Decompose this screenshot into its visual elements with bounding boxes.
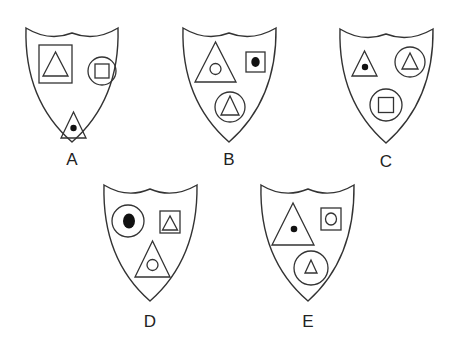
- circle-with-triangle: [395, 47, 425, 77]
- shield-option-c[interactable]: C: [340, 29, 433, 171]
- shield-outline-icon: [183, 28, 276, 142]
- square-with-dot: [246, 52, 265, 72]
- circle-with-square: [88, 57, 116, 85]
- shield-outline-icon: [340, 29, 433, 143]
- shield-puzzle-diagram: A B: [0, 0, 454, 349]
- triangle-with-dot: [352, 51, 377, 76]
- shield-outline-icon: [261, 185, 354, 301]
- option-label-c: C: [380, 152, 392, 171]
- triangle-with-dot: [61, 112, 86, 138]
- triangle-with-circle: [135, 241, 170, 277]
- circle-with-dot: [112, 205, 144, 237]
- triangle-with-circle: [195, 42, 236, 82]
- option-label-e: E: [302, 312, 313, 331]
- square-with-circle: [321, 208, 341, 230]
- circle-with-square: [370, 89, 402, 121]
- shield-outline-icon: [104, 185, 197, 301]
- circle-with-triangle: [294, 251, 328, 285]
- shield-option-d[interactable]: D: [104, 185, 197, 331]
- shield-option-e[interactable]: E: [261, 185, 354, 331]
- square-with-triangle: [39, 45, 72, 83]
- option-label-a: A: [66, 150, 78, 169]
- shield-option-b[interactable]: B: [183, 28, 276, 169]
- shield-option-a[interactable]: A: [26, 28, 118, 169]
- option-label-d: D: [144, 312, 156, 331]
- circle-with-triangle: [215, 92, 245, 122]
- square-with-triangle: [160, 211, 180, 233]
- triangle-with-dot: [272, 203, 314, 245]
- option-label-b: B: [223, 150, 234, 169]
